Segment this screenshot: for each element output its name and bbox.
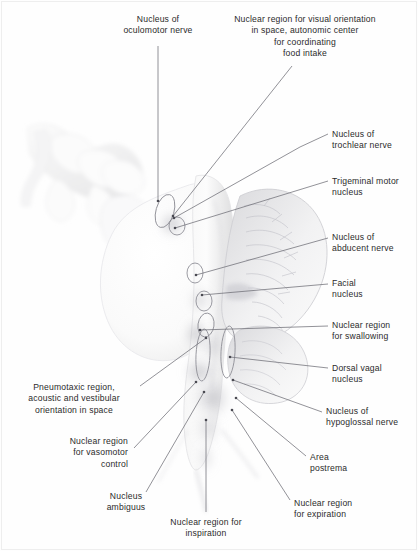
leader-oculomotor-endpoint xyxy=(157,200,160,203)
leader-hypoglossal xyxy=(233,380,322,412)
label-trigeminal-motor: Trigeminal motor nucleus xyxy=(332,176,418,199)
leader-expiration xyxy=(232,410,290,500)
label-visual-orientation: Nuclear region for visual orientation in… xyxy=(216,14,394,60)
leader-ambiguus-endpoint xyxy=(203,391,206,394)
label-hypoglossal: Nucleus of hypoglossal nerve xyxy=(326,406,418,429)
leader-vasomotor xyxy=(134,382,196,448)
label-oculomotor: Nucleus of oculomotor nerve xyxy=(98,14,218,37)
label-vasomotor: Nuclear region for vasomotor control xyxy=(52,436,128,470)
label-dorsal-vagal: Dorsal vagal nucleus xyxy=(332,363,418,386)
leader-trigeminal-endpoint xyxy=(174,227,177,230)
label-expiration: Nuclear region for expiration xyxy=(294,498,380,521)
leader-area-postrema-endpoint xyxy=(235,397,238,400)
brainstem-nuclei-figure: Nucleus of oculomotor nerveNuclear regio… xyxy=(0,0,418,551)
label-area-postrema: Area postrema xyxy=(310,452,396,475)
label-trochlear: Nucleus of trochlear nerve xyxy=(332,129,418,152)
leader-hypoglossal-endpoint xyxy=(232,379,235,382)
leader-visual xyxy=(173,66,292,216)
leader-dorsal-vagal-endpoint xyxy=(229,356,232,359)
leader-swallowing-endpoint xyxy=(199,329,202,332)
leader-pneumotaxic-endpoint xyxy=(205,337,208,340)
label-abducent: Nucleus of abducent nerve xyxy=(332,232,418,255)
label-inspiration: Nuclear region for inspiration xyxy=(150,517,262,540)
leader-expiration-endpoint xyxy=(231,409,234,412)
leader-facial-endpoint xyxy=(201,294,204,297)
leader-vasomotor-endpoint xyxy=(195,381,198,384)
leader-area-postrema xyxy=(236,398,306,456)
label-swallowing: Nuclear region for swallowing xyxy=(332,320,418,343)
leader-inspiration-endpoint xyxy=(205,419,208,422)
leader-trochlear-endpoint xyxy=(173,217,176,220)
leader-pneumotaxic xyxy=(140,338,206,386)
leader-abducent xyxy=(196,238,328,275)
leader-trochlear xyxy=(174,134,328,218)
leader-facial xyxy=(202,284,328,295)
leader-ambiguus xyxy=(146,392,204,492)
label-pneumotaxic: Pneumotaxic region, acoustic and vestibu… xyxy=(12,382,136,416)
label-ambiguus: Nucleus ambiguus xyxy=(94,491,158,514)
label-facial: Facial nucleus xyxy=(332,278,418,301)
leader-swallowing xyxy=(200,326,328,330)
leader-dorsal-vagal xyxy=(230,357,328,368)
leader-abducent-endpoint xyxy=(195,274,198,277)
